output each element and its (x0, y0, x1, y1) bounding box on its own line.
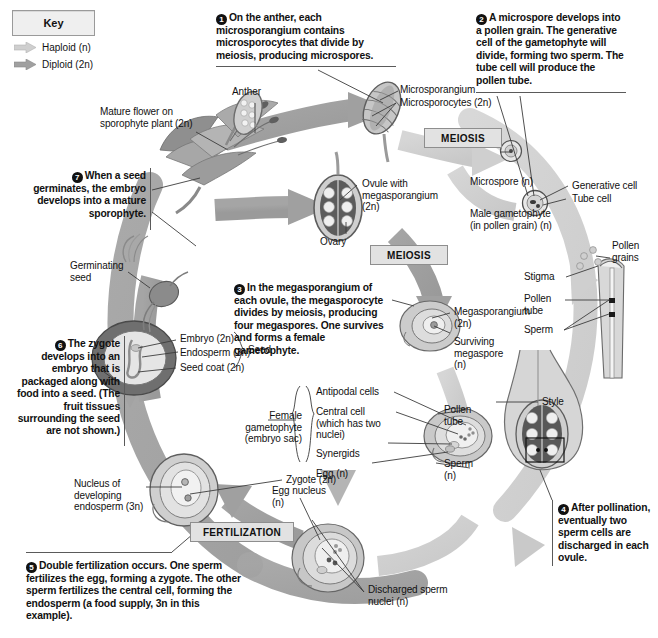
step-5-number: 5 (26, 562, 37, 573)
diploid-arrow-icon (14, 59, 36, 70)
label-central-cell: Central cell (which has two nuclei) (316, 406, 382, 441)
label-male-gametophyte: Male gametophyte (in pollen grain) (n) (470, 208, 556, 231)
meiosis-1-label: MEIOSIS (441, 133, 485, 144)
step-5: 5Double fertilization occurs. One sperm … (26, 560, 246, 623)
label-generative-cell: Generative cell (572, 180, 637, 192)
step-4-rule (552, 500, 553, 566)
label-microsporocytes: Microsporocytes (2n) (400, 97, 491, 109)
key-item-haploid: Haploid (n) (14, 42, 91, 53)
step-4: 4After pollination, eventually two sperm… (558, 502, 652, 565)
step-1-number: 1 (216, 14, 227, 25)
process-box-meiosis-1: MEIOSIS (424, 128, 502, 148)
label-germinating-seed: Germinating seed (70, 260, 130, 283)
label-megasporangium: Megasporangium (2n) (454, 306, 532, 329)
key-item-diploid: Diploid (2n) (14, 59, 93, 70)
key-title: Key (43, 17, 63, 29)
label-sperm-mid: Sperm (n) (444, 458, 478, 481)
step-6-text: The zygote develops into an embryo that … (17, 338, 120, 436)
meiosis-2-label: MEIOSIS (387, 250, 431, 261)
step-6-rule (124, 336, 125, 446)
step-1-text: On the anther, each microsporangium cont… (216, 12, 373, 61)
step-7-rule (150, 168, 151, 230)
step-2-text: A microspore develops into a pollen grai… (476, 12, 624, 86)
label-ovule-with-megasporangium: Ovule with megasporangium (2n) (362, 178, 454, 213)
key-label-haploid: Haploid (n) (42, 42, 91, 53)
step-7: 7When a seed germinates, the embryo deve… (16, 170, 146, 220)
label-antipodal-cells: Antipodal cells (316, 386, 379, 398)
label-seed-coat: Seed coat (2n) (180, 362, 244, 374)
label-anther: Anther (232, 86, 261, 98)
process-box-fertilization: FERTILIZATION (190, 522, 294, 542)
label-seed: Seed (248, 344, 271, 356)
label-ovary: Ovary (320, 236, 346, 248)
step-4-number: 4 (558, 504, 569, 515)
label-egg-nucleus: Egg nucleus (n) (272, 485, 330, 508)
label-tube-cell: Tube cell (572, 193, 611, 205)
key-label-diploid: Diploid (2n) (42, 59, 93, 70)
step-5-rule (26, 552, 172, 553)
key-box: Key (12, 10, 95, 36)
step-2-number: 2 (476, 14, 487, 25)
step-6: 6The zygote develops into an embryo that… (16, 338, 120, 438)
label-discharged-sperm-nuclei: Discharged sperm nuclei (n) (368, 584, 448, 607)
label-style: Style (542, 396, 564, 408)
haploid-arrow-icon (14, 42, 36, 53)
diagram-canvas: Key Haploid (n) Diploid (2n) MEIOSIS MEI… (0, 0, 658, 638)
label-pollen-tube-mid: Pollen tube (444, 404, 482, 427)
process-box-meiosis-2: MEIOSIS (370, 245, 448, 265)
step-3-number: 3 (234, 284, 245, 295)
step-2-rule (476, 92, 626, 93)
step-7-text: When a seed germinates, the embryo devel… (33, 170, 146, 219)
label-zygote: Zygote (2n) (286, 474, 336, 486)
step-2: 2A microspore develops into a pollen gra… (476, 12, 626, 87)
step-4-text: After pollination, eventually two sperm … (558, 502, 650, 563)
label-microsporangium: Microsporangium (400, 84, 475, 96)
step-1: 1On the anther, each microsporangium con… (216, 12, 396, 62)
label-mature-flower: Mature flower on sporophyte plant (2n) (100, 106, 200, 129)
label-female-gametophyte: Female gametophyte (embryo sac) (212, 410, 302, 445)
label-endosperm: Endosperm (3n) (180, 347, 250, 359)
label-surviving-megaspore: Surviving megaspore (n) (454, 336, 514, 371)
step-5-text: Double fertilization occurs. One sperm f… (26, 560, 241, 621)
label-embryo: Embryo (2n) (180, 333, 234, 345)
step-1-rule (216, 66, 396, 67)
label-pollen-grains: Pollen grains (612, 240, 656, 263)
fertilization-label: FERTILIZATION (203, 527, 281, 538)
label-microspore: Microspore (n) (470, 176, 540, 188)
step-7-number: 7 (72, 172, 83, 183)
label-nucleus-developing-endosperm: Nucleus of developing endosperm (3n) (74, 478, 146, 513)
step-6-number: 6 (55, 340, 66, 351)
label-synergids: Synergids (316, 448, 360, 460)
label-stigma: Stigma (524, 271, 555, 283)
